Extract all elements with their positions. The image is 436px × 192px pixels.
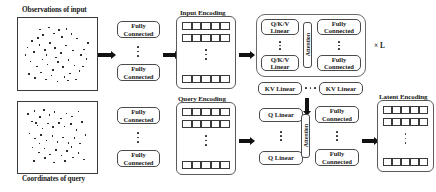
query-encoding-row xyxy=(182,120,230,128)
query-encoding-cell xyxy=(211,161,221,169)
query-encoding-cell xyxy=(192,161,202,169)
observation-point xyxy=(47,64,49,66)
latent-encoding-box xyxy=(377,100,434,172)
observation-point xyxy=(86,58,88,60)
block-fc-ellipsis xyxy=(338,41,340,50)
observation-point xyxy=(64,76,66,78)
query-point xyxy=(76,129,78,131)
input-encoding-cell xyxy=(192,75,202,83)
observation-point xyxy=(72,50,74,52)
query-point xyxy=(74,137,76,139)
query-point xyxy=(46,140,48,142)
observation-point xyxy=(53,33,55,35)
kv-linear-left: KV Linear xyxy=(258,82,302,95)
input-encoding-cell xyxy=(182,75,192,83)
observation-point xyxy=(74,65,76,67)
query-point xyxy=(83,159,85,161)
input-encoding-cell xyxy=(182,34,192,42)
query-point xyxy=(40,134,42,136)
latent-encoding-cell xyxy=(419,118,428,126)
input-fc-top-line2: Connected xyxy=(123,30,153,37)
observation-point xyxy=(40,72,42,74)
query-point xyxy=(34,138,36,140)
query-point xyxy=(43,109,45,111)
input-encoding-row xyxy=(182,22,230,30)
block-fc-bottom: Fully Connected xyxy=(317,55,361,71)
observation-point xyxy=(52,69,54,71)
output-fc-bottom-line1: Fully xyxy=(330,150,345,157)
observation-point xyxy=(66,28,68,30)
query-point xyxy=(70,123,72,125)
input-encoding-cell xyxy=(182,22,192,30)
latent-encoding-cell xyxy=(383,118,392,126)
latent-encoding-cell xyxy=(410,158,419,166)
observation-point xyxy=(42,34,44,36)
output-fc-bottom: Fully Connected xyxy=(315,149,359,166)
output-fc-top-line2: Connected xyxy=(322,115,352,122)
observation-point xyxy=(46,54,48,56)
latent-encoding-cell xyxy=(419,158,428,166)
self-attention-bar: Attention xyxy=(303,22,312,68)
input-encoding-cell xyxy=(220,34,230,42)
input-fc-bottom: Fully Connected xyxy=(117,64,160,81)
query-encoding-cell xyxy=(192,120,202,128)
query-encoding-cell xyxy=(211,108,221,116)
input-encoding-cell xyxy=(192,34,202,42)
query-encoding-cell xyxy=(182,108,192,116)
query-point xyxy=(33,160,35,162)
query-point xyxy=(29,133,31,135)
output-fc-bottom-line2: Connected xyxy=(322,158,352,165)
block-fc-bottom-line1: Fully xyxy=(332,56,347,63)
query-point xyxy=(55,149,57,151)
query-point xyxy=(60,118,62,120)
block-fc-bottom-line2: Connected xyxy=(324,63,354,70)
architecture-diagram: Observations of input Fully Connected Fu… xyxy=(0,0,436,192)
query-point xyxy=(71,116,73,118)
query-encoding-ellipsis xyxy=(205,135,207,146)
input-encoding-cell xyxy=(211,34,221,42)
latent-encoding-cell xyxy=(401,158,410,166)
observation-point xyxy=(83,49,85,51)
cross-attention-label: Attention xyxy=(302,124,309,147)
observation-point xyxy=(79,70,81,72)
observation-point xyxy=(33,51,35,53)
query-encoding-cell xyxy=(201,120,211,128)
observation-point xyxy=(37,37,39,39)
input-encoding-row xyxy=(182,75,230,83)
query-fc-top-line2: Connected xyxy=(123,116,153,123)
query-point xyxy=(38,152,40,154)
qkv-linear-bottom: Q/K/V Linear xyxy=(261,55,299,71)
query-fc-ellipsis xyxy=(137,132,139,143)
query-point xyxy=(57,141,59,143)
latent-encoding-cell xyxy=(410,106,419,114)
output-fc-top-line1: Fully xyxy=(330,107,345,114)
qkv-linear-top-line1: Q/K/V xyxy=(271,20,290,27)
query-point xyxy=(68,142,70,144)
input-fc-bottom-line2: Connected xyxy=(123,73,153,80)
latent-encoding-ellipsis xyxy=(405,133,407,144)
observation-point xyxy=(87,42,89,44)
observation-point xyxy=(67,80,69,82)
query-point xyxy=(58,122,60,124)
query-encoding-cell xyxy=(211,120,221,128)
q-linear-top: Q Linear xyxy=(259,108,303,122)
latent-encoding-cell xyxy=(383,158,392,166)
query-point xyxy=(78,111,80,113)
latent-encoding-cell xyxy=(401,106,410,114)
observation-point xyxy=(45,79,47,81)
observation-point xyxy=(76,38,78,40)
observation-point xyxy=(82,66,84,68)
query-point xyxy=(49,154,51,156)
observation-point xyxy=(44,49,46,51)
query-fc-bottom: Fully Connected xyxy=(117,150,160,167)
query-fc-bottom-line1: Fully xyxy=(131,151,146,158)
input-fc-ellipsis xyxy=(137,46,139,57)
cross-attention-bar: Attention xyxy=(301,114,310,158)
observations-caption: Observations of input xyxy=(22,6,87,14)
input-encoding-ellipsis xyxy=(205,49,207,60)
input-encoding-cell xyxy=(211,75,221,83)
observation-point xyxy=(71,33,73,35)
query-encoding-cell xyxy=(220,108,230,116)
query-point xyxy=(72,157,74,159)
query-encoding-cell xyxy=(220,161,230,169)
